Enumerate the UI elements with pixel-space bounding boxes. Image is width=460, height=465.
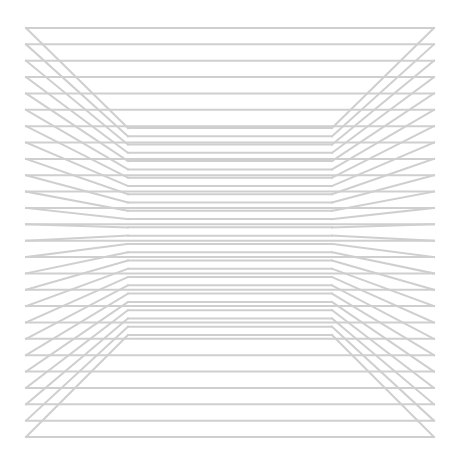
line-art-canvas — [0, 0, 460, 465]
left-diagonal-line — [26, 110, 128, 170]
right-diagonal-line — [332, 77, 434, 153]
left-diagonal-line — [26, 44, 128, 136]
right-diagonal-line — [332, 327, 434, 421]
left-diagonal-line — [26, 327, 128, 421]
left-diagonal-line — [26, 335, 128, 437]
right-diagonal-line — [332, 294, 434, 356]
left-diagonal-line — [26, 294, 128, 356]
left-diagonal-line — [26, 208, 128, 219]
right-diagonal-line — [332, 335, 434, 437]
right-diagonal-line — [332, 208, 434, 219]
left-diagonal-line — [26, 77, 128, 153]
right-diagonal-line — [332, 44, 434, 136]
right-diagonal-line — [332, 110, 434, 170]
